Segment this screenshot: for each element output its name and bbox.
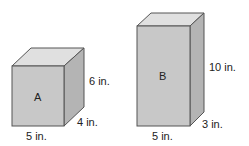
prism-a xyxy=(12,48,84,126)
prism-b-length-label: 5 in. xyxy=(152,130,173,142)
prism-b-side-face xyxy=(190,13,204,126)
prism-b xyxy=(137,13,204,126)
prism-b-width-label: 3 in. xyxy=(202,118,223,130)
prism-b-name: B xyxy=(159,70,166,82)
prism-a-length-label: 5 in. xyxy=(26,130,47,142)
prism-a-height-label: 6 in. xyxy=(89,75,110,87)
prism-b-height-label: 10 in. xyxy=(209,61,236,73)
prism-a-width-label: 4 in. xyxy=(77,116,98,128)
prism-a-name: A xyxy=(34,91,41,103)
